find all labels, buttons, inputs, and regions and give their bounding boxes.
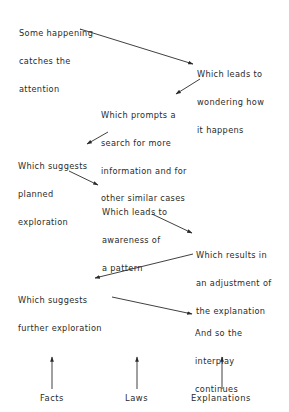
axis-label-facts: Facts bbox=[40, 393, 64, 403]
node-text-line: Which leads to bbox=[102, 208, 167, 217]
axis-label-explanations: Explanations bbox=[191, 393, 251, 403]
node-text-line: Some happening bbox=[19, 29, 93, 38]
node-text-line: catches the bbox=[19, 57, 93, 66]
node-text-line: attention bbox=[19, 85, 93, 94]
flow-arrow-icon bbox=[112, 297, 192, 314]
node-wondering: Which leads to wondering how it happens bbox=[197, 52, 264, 153]
node-some-happening: Some happening catches the attention bbox=[19, 11, 93, 112]
flow-arrow-icon bbox=[80, 29, 193, 64]
node-text-line: search for more bbox=[101, 139, 187, 148]
node-further-exploration: Which suggests further exploration bbox=[18, 278, 102, 352]
node-text-line: Which leads to bbox=[197, 70, 264, 79]
axis-label-laws: Laws bbox=[125, 393, 148, 403]
node-text-line: further exploration bbox=[18, 324, 102, 333]
node-text-line: information and for bbox=[101, 167, 187, 176]
node-planned-exploration: Which suggests planned exploration bbox=[18, 144, 87, 245]
node-text-line: awareness of bbox=[102, 236, 167, 245]
node-text-line: Which suggests bbox=[18, 162, 87, 171]
node-pattern: Which leads to awareness of a pattern bbox=[102, 190, 167, 291]
node-text-line: Which results in bbox=[196, 251, 271, 260]
node-text-line: planned bbox=[18, 190, 87, 199]
node-text-line: wondering how bbox=[197, 98, 264, 107]
node-text-line: exploration bbox=[18, 218, 87, 227]
node-text-line: an adjustment of bbox=[196, 279, 271, 288]
node-text-line: Which prompts a bbox=[101, 111, 187, 120]
node-text-line: a pattern bbox=[102, 264, 167, 273]
node-text-line: Which suggests bbox=[18, 296, 102, 305]
node-text-line: it happens bbox=[197, 126, 264, 135]
node-text-line: And so the bbox=[195, 329, 242, 338]
node-text-line: interplay bbox=[195, 357, 242, 366]
